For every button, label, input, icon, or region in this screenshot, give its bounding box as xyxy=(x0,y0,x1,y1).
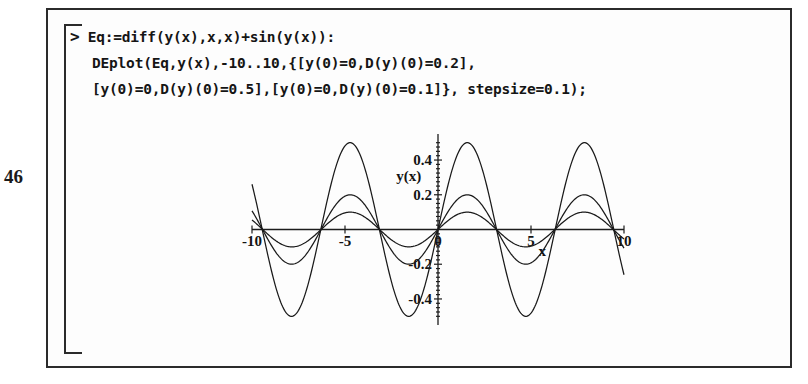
maple-input-region[interactable]: > Eq:=diff(y(x),x,x)+sin(y(x)): DEplot(E… xyxy=(70,24,776,102)
deplot-output-plot[interactable]: -10-50510 -0.4-0.20.20.4 y(x) x xyxy=(238,122,638,337)
code-line-2[interactable]: DEplot(Eq,y(x),-10..10,{[y(0)=0,D(y)(0)=… xyxy=(70,50,776,76)
page-number: 46 xyxy=(4,166,23,188)
maple-worksheet-frame: > Eq:=diff(y(x),x,x)+sin(y(x)): DEplot(E… xyxy=(46,8,792,368)
y-tick-label: 0.2 xyxy=(413,187,432,203)
maple-prompt: > xyxy=(70,24,80,50)
y-tick-label: 0.4 xyxy=(413,152,432,168)
x-tick-label: -5 xyxy=(339,233,352,249)
code-line-1[interactable]: Eq:=diff(y(x),x,x)+sin(y(x)): xyxy=(88,24,335,50)
x-tick-label: -10 xyxy=(242,233,262,249)
y-axis-label: y(x) xyxy=(396,168,421,185)
prompt-row: > Eq:=diff(y(x),x,x)+sin(y(x)): xyxy=(70,24,776,50)
plot-svg: -10-50510 -0.4-0.20.20.4 y(x) x xyxy=(238,122,638,337)
code-line-3[interactable]: [y(0)=0,D(y)(0)=0.5],[y(0)=0,D(y)(0)=0.1… xyxy=(70,76,776,102)
